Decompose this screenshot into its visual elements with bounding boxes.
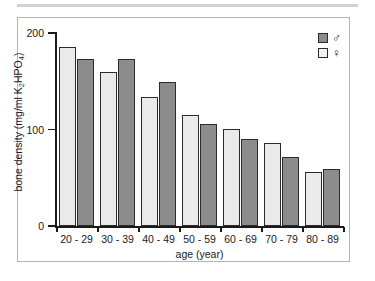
bar-group (141, 33, 176, 226)
bar-group (182, 33, 217, 226)
x-axis-tick-label: 60 - 69 (220, 234, 261, 245)
x-axis-tick (179, 227, 181, 232)
legend-swatch-male (318, 33, 328, 43)
y-axis-tick (48, 225, 55, 227)
bar-male[interactable] (323, 169, 340, 226)
legend-item-female[interactable]: ♀ (318, 45, 354, 60)
x-axis-tick-label: 30 - 39 (97, 234, 138, 245)
x-axis-tick (261, 227, 263, 232)
bar-female[interactable] (100, 72, 117, 226)
x-axis-tick-label: 50 - 59 (179, 234, 220, 245)
top-horizontal-rule (17, 4, 358, 7)
y-axis-tick-label: 0 (18, 221, 44, 232)
x-axis-tick (220, 227, 222, 232)
female-symbol-icon: ♀ (332, 47, 341, 59)
y-axis-title: bone density (mg/ml K2HPO4) (13, 37, 25, 207)
x-axis-tick (56, 227, 58, 232)
legend-item-male[interactable]: ♂ (318, 30, 354, 45)
legend-swatch-female (318, 48, 328, 58)
x-axis-tick-label: 40 - 49 (138, 234, 179, 245)
bar-female[interactable] (223, 129, 240, 226)
bar-male[interactable] (282, 157, 299, 226)
bar-female[interactable] (59, 47, 76, 226)
x-axis-tick (302, 227, 304, 232)
chart-legend: ♂♀ (318, 30, 354, 60)
x-axis-tick-label: 80 - 89 (302, 234, 343, 245)
plot-area (56, 33, 343, 226)
bar-group (223, 33, 258, 226)
bar-female[interactable] (182, 115, 199, 226)
x-axis-title: age (year) (56, 249, 343, 260)
x-axis-tick (343, 227, 345, 232)
bar-group (264, 33, 299, 226)
x-axis-tick (138, 227, 140, 232)
male-symbol-icon: ♂ (332, 32, 341, 44)
x-axis-tick-label: 70 - 79 (261, 234, 302, 245)
y-axis-tick (48, 32, 55, 34)
bar-group (59, 33, 94, 226)
bar-male[interactable] (200, 124, 217, 226)
figure-page: 0100200 bone density (mg/ml K2HPO4) 20 -… (0, 0, 375, 281)
bar-female[interactable] (264, 143, 281, 226)
x-axis-tick (97, 227, 99, 232)
x-axis-tick-label: 20 - 29 (56, 234, 97, 245)
bar-female[interactable] (141, 97, 158, 226)
bar-male[interactable] (118, 59, 135, 226)
bar-male[interactable] (241, 139, 258, 226)
bar-male[interactable] (77, 59, 94, 226)
bar-female[interactable] (305, 172, 322, 226)
bar-group (100, 33, 135, 226)
bar-male[interactable] (159, 82, 176, 226)
y-axis-tick (48, 129, 55, 131)
bar-group (305, 33, 340, 226)
